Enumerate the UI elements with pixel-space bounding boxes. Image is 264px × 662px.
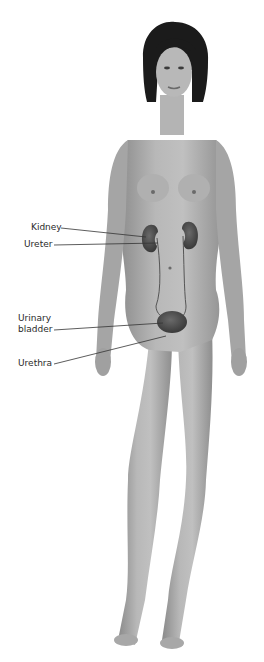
label-ureter: Ureter [24, 239, 52, 250]
legs [114, 330, 213, 649]
label-kidney: Kidney [31, 222, 62, 233]
label-urethra: Urethra [18, 358, 52, 369]
neck [160, 95, 184, 135]
bladder [157, 311, 187, 333]
label-urinary-bladder: Urinary bladder [18, 313, 52, 335]
face [156, 47, 192, 97]
